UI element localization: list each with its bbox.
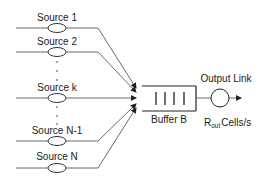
output-link-label: Output Link	[200, 73, 252, 84]
queue-diagram: Source 1 Source 2 Source k Source N-1	[0, 0, 269, 181]
source-n: Source N	[16, 108, 136, 173]
source-1-label: Source 1	[37, 12, 77, 23]
source-n-minus-1-label: Source N-1	[32, 125, 83, 136]
server-node	[211, 89, 229, 107]
source-k-label: Source k	[37, 82, 77, 93]
buffer: Buffer B	[142, 86, 196, 125]
ellipsis-dots-lower	[56, 106, 58, 125]
source-n-label: Source N	[36, 151, 78, 162]
source-n-minus-1: Source N-1	[16, 104, 136, 146]
source-k-node	[48, 94, 66, 103]
buffer-label: Buffer B	[151, 114, 187, 125]
source-n-minus-1-node	[48, 137, 66, 146]
source-1-node	[48, 24, 66, 33]
ellipsis-dots-upper	[56, 61, 58, 81]
source-2-label: Source 2	[37, 36, 77, 47]
output-link: Output Link RoutCells/s	[196, 73, 253, 129]
source-1: Source 1	[16, 12, 136, 88]
source-k: Source k	[16, 82, 136, 103]
source-n-node	[48, 164, 66, 173]
source-2-node	[48, 48, 66, 57]
output-rate-label: RoutCells/s	[204, 117, 251, 129]
